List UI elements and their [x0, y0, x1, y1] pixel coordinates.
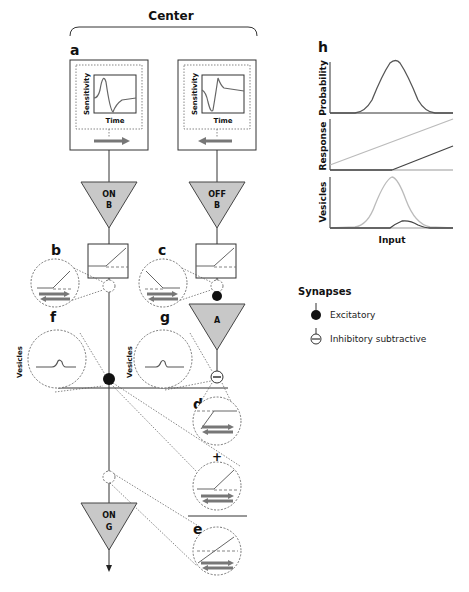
panel-g-magnifier: Vesicles: [126, 330, 192, 388]
panel-d-sum-magnifier: [193, 462, 241, 510]
response-axis-label: Response: [318, 122, 328, 171]
time-label: Time: [213, 117, 232, 125]
panel-d-magnifier: [193, 397, 241, 445]
off-kernel-box: Sensitivity Time: [178, 60, 256, 150]
panel-label-g: g: [160, 309, 170, 325]
legend-item-inhibitory: Inhibitory subtractive: [330, 334, 427, 344]
amacrine-label: A: [214, 316, 221, 325]
arrow-left-icon: [198, 137, 206, 145]
panel-f-magnifier: Vesicles: [16, 330, 86, 388]
vesicles-label: Vesicles: [16, 346, 24, 378]
on-ganglion-label-2: G: [106, 523, 113, 532]
off-kernel-curve: [202, 78, 244, 111]
excitatory-synapse-icon: [212, 291, 222, 301]
panel-label-f: f: [50, 309, 57, 325]
sensitivity-label: Sensitivity: [83, 73, 91, 115]
arrow-right-icon: [122, 137, 130, 145]
input-axis-label: Input: [379, 235, 407, 245]
on-nonlinearity-box: [88, 244, 128, 278]
probability-axis-label: Probability: [318, 60, 328, 116]
panel-label-b: b: [51, 242, 61, 258]
panel-e-magnifier: [193, 527, 241, 575]
on-bipolar-label: ON: [102, 190, 116, 199]
sensitivity-label: Sensitivity: [191, 73, 199, 115]
excitatory-synapse-icon: [311, 310, 321, 320]
on-kernel-box: Sensitivity Time: [70, 60, 148, 150]
vesicles-plot: Vesicles: [318, 177, 453, 228]
on-ganglion-label: ON: [102, 511, 116, 520]
amacrine-cell: [189, 304, 245, 350]
probability-plot: Probability: [318, 60, 453, 116]
legend-item-excitatory: Excitatory: [330, 310, 376, 320]
off-bipolar-label: OFF: [208, 190, 226, 199]
off-bipolar-label-2: B: [214, 201, 220, 210]
retina-circuit-diagram: Center a Sensitivity Time Sensitivity Ti…: [0, 0, 469, 592]
center-title: Center: [148, 9, 193, 23]
time-label: Time: [105, 117, 124, 125]
output-arrow-icon: [106, 565, 112, 572]
legend-title: Synapses: [298, 286, 351, 297]
off-nonlinearity-box: [196, 244, 236, 278]
panel-c-magnifier: [139, 259, 187, 307]
inhibitory-synapse-icon: [211, 371, 223, 383]
panel-b-magnifier: [31, 259, 79, 307]
response-plot: Response: [318, 119, 453, 170]
on-kernel-curve: [94, 78, 136, 112]
on-bipolar-label-2: B: [106, 201, 112, 210]
panel-label-c: c: [158, 242, 166, 258]
synapse-legend: Synapses Excitatory Inhibitory subtracti…: [298, 286, 427, 344]
center-bracket: [70, 27, 257, 36]
vesicles-axis-label: Vesicles: [318, 182, 328, 223]
panel-label-a: a: [70, 42, 79, 58]
panel-label-h: h: [318, 39, 328, 55]
vesicles-label: Vesicles: [126, 346, 134, 378]
